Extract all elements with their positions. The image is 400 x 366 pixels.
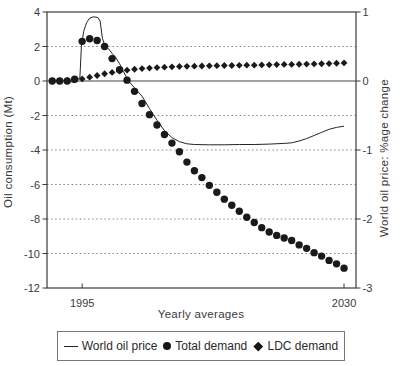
figure: 420-2-4-6-8-10-1210-1-2-319952030 Oil co… — [0, 0, 400, 366]
ldc-demand-point — [94, 72, 101, 79]
ldc-demand-point — [213, 62, 220, 69]
total-demand-point — [93, 37, 100, 44]
left-tick-label: -2 — [30, 110, 40, 122]
legend: World oil price Total demand LDC demand — [57, 331, 345, 361]
total-demand-point — [333, 260, 340, 267]
ldc-demand-point — [139, 65, 146, 72]
diamond-marker-icon — [254, 341, 263, 350]
oil-demand-price-chart: 420-2-4-6-8-10-1210-1-2-319952030 Oil co… — [0, 0, 400, 366]
total-demand-point — [123, 76, 130, 83]
total-demand-point — [116, 66, 123, 73]
total-demand-point — [221, 195, 228, 202]
total-demand-point — [183, 158, 190, 165]
ldc-demand-point — [154, 64, 161, 71]
ldc-demand-point — [198, 63, 205, 70]
total-demand-point — [228, 202, 235, 209]
total-demand-point — [318, 252, 325, 259]
total-demand-point — [101, 43, 108, 50]
left-tick-label: 0 — [34, 75, 40, 87]
ldc-demand-point — [236, 62, 243, 69]
left-tick-label: 2 — [34, 41, 40, 53]
total-demand-point — [78, 38, 85, 45]
ldc-demand-point — [101, 70, 108, 77]
ldc-demand-point — [109, 69, 116, 76]
ldc-demand-point — [131, 66, 138, 73]
ldc-demand-point — [273, 61, 280, 68]
total-demand-point — [288, 237, 295, 244]
line-marker-icon — [64, 346, 78, 347]
total-demand-point — [310, 249, 317, 256]
series-layer — [49, 17, 348, 272]
total-demand-point — [251, 219, 258, 226]
x-tick-label: 2030 — [332, 297, 356, 309]
left-axis-title: Oil consumption (Mt) — [2, 96, 14, 208]
left-tick-label: -8 — [30, 213, 40, 225]
total-demand-point — [273, 232, 280, 239]
total-demand-point — [146, 111, 153, 118]
total-demand-point — [86, 35, 93, 42]
total-demand-point — [258, 224, 265, 231]
ldc-demand-point — [281, 61, 288, 68]
total-demand-point — [325, 257, 332, 264]
x-axis-title: Yearly averages — [158, 308, 245, 320]
total-demand-point — [295, 241, 302, 248]
right-tick-label: 1 — [363, 6, 369, 18]
axis-tick-labels: 420-2-4-6-8-10-1210-1-2-319952030 — [24, 6, 372, 309]
total-demand-point — [213, 189, 220, 196]
ldc-demand-point — [146, 65, 153, 72]
total-demand-point — [108, 55, 115, 62]
ldc-demand-point — [221, 62, 228, 69]
ldc-demand-point — [169, 63, 176, 70]
left-tick-label: -4 — [30, 144, 40, 156]
ldc-demand-point — [228, 62, 235, 69]
left-tick-label: 4 — [34, 6, 40, 18]
legend-label-total-demand: Total demand — [175, 339, 247, 353]
total-demand-point — [236, 208, 243, 215]
total-demand-point — [138, 100, 145, 107]
total-demand-point — [176, 148, 183, 155]
total-demand-point — [340, 264, 347, 271]
ldc-demand-point — [326, 60, 333, 67]
ldc-demand-point — [124, 67, 131, 74]
gridlines — [47, 47, 356, 254]
ldc-demand-point — [296, 61, 303, 68]
ldc-demand-point — [86, 74, 93, 81]
ldc-demand-point — [243, 62, 250, 69]
right-tick-label: -1 — [363, 144, 373, 156]
right-axis-title: World oil price: %age change — [378, 79, 390, 237]
total-demand-point — [56, 77, 63, 84]
ldc-demand-point — [288, 61, 295, 68]
ldc-demand-point — [333, 60, 340, 67]
total-demand-point — [266, 228, 273, 235]
axis-ticks — [43, 12, 361, 288]
x-tick-label: 1995 — [70, 297, 94, 309]
legend-item-world-oil-price: World oil price — [64, 339, 158, 353]
total-demand-point — [153, 121, 160, 128]
total-demand-point — [161, 131, 168, 138]
ldc-demand-point — [318, 60, 325, 67]
total-demand-point — [49, 77, 56, 84]
total-demand-point — [243, 214, 250, 221]
ldc-demand-point — [303, 61, 310, 68]
total-demand-point — [198, 174, 205, 181]
right-tick-label: -3 — [363, 282, 373, 294]
total-demand-point — [206, 182, 213, 189]
ldc-demand-point — [266, 61, 273, 68]
right-tick-label: 0 — [363, 75, 369, 87]
total-demand-point — [64, 77, 71, 84]
legend-label-ldc-demand: LDC demand — [268, 339, 339, 353]
total-demand-point — [280, 234, 287, 241]
legend-label-world-oil-price: World oil price — [82, 339, 158, 353]
left-tick-label: -6 — [30, 179, 40, 191]
ldc-demand-point — [311, 61, 318, 68]
ldc-demand-point — [258, 62, 265, 69]
ldc-demand-point — [251, 62, 258, 69]
left-tick-label: -10 — [24, 248, 40, 260]
total-demand-point — [303, 245, 310, 252]
legend-item-ldc-demand: LDC demand — [253, 339, 338, 353]
total-demand-point — [71, 76, 78, 83]
total-demand-point — [168, 139, 175, 146]
ldc-demand-point — [161, 64, 168, 71]
ldc-demand-point — [341, 59, 348, 66]
ldc-demand-point — [191, 63, 198, 70]
